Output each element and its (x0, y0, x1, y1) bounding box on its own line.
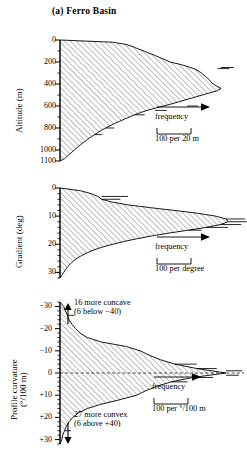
tick-label-profile-curvature-distribution: 0 (12, 368, 52, 377)
legend-curvature-frequency-label: frequency (152, 382, 185, 391)
tick-label-altitude-distribution: 0 (16, 35, 56, 44)
panel-curvature: Profile curvature (°/100 m) 16 more conc… (0, 292, 247, 456)
legend-gradient-scale-label: 100 per degree (155, 264, 204, 273)
convex-note: 27 more convex (6 above +40) (74, 410, 127, 429)
legend-curvature-scale-label: 100 per °/100 m (152, 404, 206, 413)
figure-title: (a) Ferro Basin (52, 6, 117, 16)
tick-label-altitude-distribution: 200 (16, 57, 56, 66)
concave-note-line1: 16 more concave (74, 298, 131, 307)
panel-altitude: Altitude (m) frequency 100 per 20 m 0200… (0, 28, 247, 168)
concave-note-line2: (6 below −40) (74, 307, 131, 316)
tick-label-altitude-distribution: 1000 (16, 145, 56, 154)
tick-label-gradient-distribution: 0 (16, 183, 56, 192)
legend-gradient-frequency-label: frequency (155, 242, 188, 251)
legend-altitude: frequency 100 per 20 m (155, 100, 245, 146)
tick-label-altitude-distribution: 400 (16, 79, 56, 88)
figure-ferro-basin: (a) Ferro Basin Altitude (m) frequency 1… (0, 0, 247, 456)
panel-gradient: Gradient (deg) frequency 100 per degree … (0, 178, 247, 290)
legend-altitude-scale-label: 100 per 20 m (155, 134, 199, 143)
tick-label-profile-curvature-distribution: +20 (12, 412, 52, 421)
tick-label-altitude-distribution: 1100 (16, 156, 56, 165)
legend-curvature: frequency 100 per °/100 m (152, 370, 247, 416)
tick-label-gradient-distribution: 20 (16, 239, 56, 248)
tick-label-altitude-distribution: 600 (16, 101, 56, 110)
convex-note-line2: (6 above +40) (74, 419, 127, 428)
legend-altitude-frequency-label: frequency (155, 112, 188, 121)
tick-label-profile-curvature-distribution: +30 (12, 435, 52, 444)
tick-label-profile-curvature-distribution: −10 (12, 346, 52, 355)
tick-label-gradient-distribution: 10 (16, 211, 56, 220)
tick-label-profile-curvature-distribution: −30 (12, 301, 52, 310)
tick-label-profile-curvature-distribution: +10 (12, 390, 52, 399)
convex-note-line1: 27 more convex (74, 410, 127, 419)
tick-label-gradient-distribution: 30 (16, 267, 56, 276)
concave-note: 16 more concave (6 below −40) (74, 298, 131, 317)
tick-label-profile-curvature-distribution: −20 (12, 324, 52, 333)
tick-label-altitude-distribution: 800 (16, 123, 56, 132)
legend-gradient: frequency 100 per degree (155, 230, 247, 276)
